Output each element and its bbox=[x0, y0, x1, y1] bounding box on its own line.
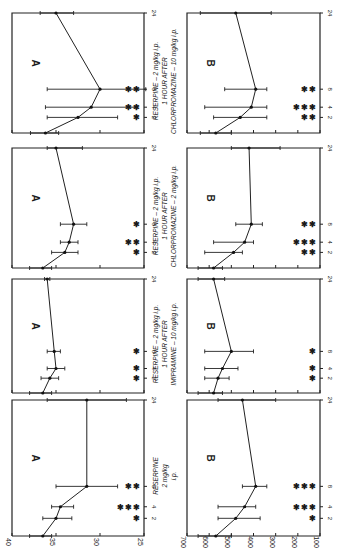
hour-tick-label: 24 bbox=[327, 145, 333, 152]
a-axis-tick-label: 35 bbox=[49, 538, 56, 546]
hour-tick-label: 2 bbox=[327, 116, 333, 120]
data-point bbox=[41, 391, 44, 394]
significance-star-icon: ✱ bbox=[125, 482, 132, 491]
significance-star-icon: ✱ bbox=[309, 220, 316, 229]
data-point bbox=[46, 277, 49, 280]
data-point bbox=[232, 251, 235, 254]
data-point bbox=[214, 131, 217, 134]
panel-letter: A bbox=[30, 322, 41, 329]
significance-star-icon: ✱ bbox=[309, 482, 316, 491]
data-point bbox=[59, 505, 62, 508]
data-point bbox=[212, 277, 215, 280]
figure-container: 24824✱✱✱✱✱A24824✱✱✱✱A24824✱✱✱A24824✱✱✱✱✱… bbox=[0, 0, 337, 552]
panel-letter: A bbox=[30, 59, 41, 66]
panel-caption: 1 HOUR AFTER bbox=[161, 320, 168, 368]
hour-tick-label: 24 bbox=[327, 276, 333, 283]
significance-star-icon: ✱ bbox=[133, 238, 140, 247]
significance-star-icon: ✱ bbox=[309, 113, 316, 122]
hour-tick-label: 4 bbox=[151, 505, 157, 509]
data-point bbox=[250, 106, 253, 109]
b-axis-tick-label: 200 bbox=[291, 536, 298, 548]
significance-star-icon: ✱ bbox=[293, 103, 300, 112]
b-axis-tick-label: 600 bbox=[202, 536, 209, 548]
significance-star-icon: ✱ bbox=[301, 103, 308, 112]
data-point bbox=[54, 517, 57, 520]
panel-A1: 24824✱✱✱✱✱A bbox=[12, 10, 157, 135]
panel-A4: 24824✱✱✱✱✱✱A bbox=[12, 397, 157, 538]
data-point bbox=[41, 266, 44, 269]
panel-B1: 24824✱✱✱✱✱✱✱B bbox=[187, 10, 333, 135]
panel-B3: 24824✱✱✱B bbox=[187, 276, 333, 395]
panel-caption: 1 HOUR AFTER bbox=[161, 192, 168, 240]
data-line bbox=[214, 148, 252, 268]
data-line bbox=[216, 400, 256, 536]
data-point bbox=[53, 350, 56, 353]
significance-star-icon: ✱ bbox=[133, 103, 140, 112]
panel-caption: RESERPINE – 2 mg/kg i.p. bbox=[152, 305, 160, 384]
data-point bbox=[44, 131, 47, 134]
data-point bbox=[239, 116, 242, 119]
significance-star-icon: ✱ bbox=[309, 248, 316, 257]
hour-tick-label: 8 bbox=[327, 88, 333, 92]
figure-svg: 24824✱✱✱✱✱A24824✱✱✱✱A24824✱✱✱A24824✱✱✱✱✱… bbox=[0, 0, 337, 552]
data-point bbox=[241, 398, 244, 401]
panel-caption: CHLORPROMAZINE – 2 mg/kg i.p. bbox=[170, 165, 178, 267]
significance-star-icon: ✱ bbox=[309, 364, 316, 373]
data-point bbox=[212, 266, 215, 269]
significance-star-icon: ✱ bbox=[309, 347, 316, 356]
panel-caption: RESERPINE – 2 mg/kg i.p. bbox=[152, 177, 160, 256]
data-line bbox=[43, 148, 74, 268]
data-point bbox=[243, 505, 246, 508]
panel-letter: B bbox=[205, 454, 216, 461]
data-point bbox=[85, 485, 88, 488]
significance-star-icon: ✱ bbox=[309, 238, 316, 247]
panel-caption: 2 mg/kg bbox=[161, 464, 169, 489]
data-point bbox=[247, 146, 250, 149]
data-point bbox=[230, 350, 233, 353]
hour-tick-label: 24 bbox=[327, 397, 333, 404]
panel-caption: 1 HOUR AFTER bbox=[161, 57, 168, 105]
panel-frame bbox=[12, 13, 144, 133]
hour-tick-label: 24 bbox=[151, 145, 157, 152]
data-line bbox=[216, 13, 256, 133]
significance-star-icon: ✱ bbox=[301, 248, 308, 257]
hour-tick-label: 8 bbox=[327, 485, 333, 489]
panel-letter: A bbox=[30, 194, 41, 201]
hour-tick-label: 8 bbox=[327, 350, 333, 354]
data-point bbox=[212, 391, 215, 394]
panel-letter: A bbox=[30, 454, 41, 461]
data-point bbox=[41, 534, 44, 537]
significance-star-icon: ✱ bbox=[301, 85, 308, 94]
significance-star-icon: ✱ bbox=[125, 103, 132, 112]
data-point bbox=[214, 534, 217, 537]
data-point bbox=[63, 251, 66, 254]
significance-star-icon: ✱ bbox=[293, 238, 300, 247]
panel-frame bbox=[12, 279, 144, 393]
hour-tick-label: 2 bbox=[327, 251, 333, 255]
data-point bbox=[234, 517, 237, 520]
data-point bbox=[72, 223, 75, 226]
data-point bbox=[54, 146, 57, 149]
hour-tick-label: 2 bbox=[327, 517, 333, 521]
hour-tick-label: 4 bbox=[327, 241, 333, 245]
b-axis-tick-label: 500 bbox=[224, 536, 231, 548]
significance-star-icon: ✱ bbox=[125, 85, 132, 94]
data-point bbox=[68, 241, 71, 244]
significance-star-icon: ✱ bbox=[133, 374, 140, 383]
panel-A2: 24824✱✱✱✱A bbox=[12, 145, 157, 270]
data-point bbox=[54, 367, 57, 370]
data-point bbox=[221, 367, 224, 370]
panel-caption: IMIPRAMINE – 10 mg/kg i.p. bbox=[170, 302, 178, 385]
significance-star-icon: ✱ bbox=[117, 503, 124, 512]
data-point bbox=[243, 241, 246, 244]
significance-star-icon: ✱ bbox=[293, 482, 300, 491]
hour-tick-label: 4 bbox=[327, 106, 333, 110]
significance-star-icon: ✱ bbox=[301, 113, 308, 122]
significance-star-icon: ✱ bbox=[301, 503, 308, 512]
panel-frame bbox=[12, 400, 144, 536]
panel-caption: RESERPINE bbox=[152, 457, 159, 495]
significance-star-icon: ✱ bbox=[125, 238, 132, 247]
hour-tick-label: 4 bbox=[327, 367, 333, 371]
panel-caption: RESERPINE – 2 mg/kg i.p. bbox=[152, 42, 160, 121]
data-point bbox=[98, 88, 101, 91]
